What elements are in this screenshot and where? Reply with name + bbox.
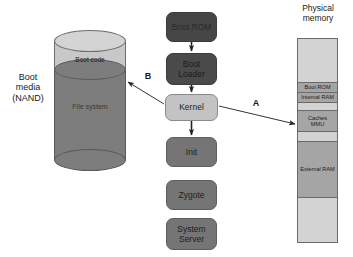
arrow-layer [0,0,353,257]
arrow-label-b: B [141,71,155,81]
arrow-b-kernel-to-boot-media [128,82,164,104]
diagram-canvas: Boot media (NAND) Boot code File system … [0,0,353,257]
arrow-a-kernel-to-physical-memory [219,106,295,124]
arrow-label-a: A [249,98,263,108]
